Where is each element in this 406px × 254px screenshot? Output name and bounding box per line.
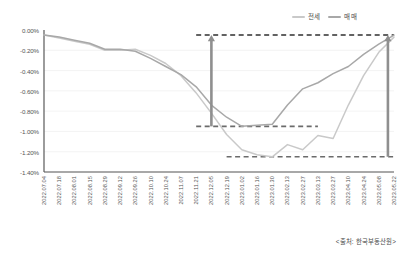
series-line-매매 [44,35,394,126]
legend-swatch-jeonse [292,16,305,18]
x-tick-label: 2022.12.05 [208,176,214,205]
legend-label-jeonse: 전세 [308,14,320,21]
recovery-arrow-jeonse [384,35,391,157]
x-tick-label: 2022.07.18 [56,176,62,205]
x-tick-label: 2022.11.21 [193,176,199,205]
x-tick-label: 2023.03.13 [315,176,321,205]
x-tick-label: 2023.05.22 [391,176,397,205]
y-axis: 0.00%-0.20%-0.40%-0.60%-0.80%-1.00%-1.20… [0,30,42,172]
chart-root: 전세 매매 0.00%-0.20%-0.40%-0.60%-0.80%-1.00… [0,0,406,254]
y-tick-label: -1.40% [20,169,39,176]
plot-area [44,30,394,172]
x-tick-label: 2022.12.19 [224,176,230,205]
x-tick-label: 2022.08.29 [102,176,108,205]
x-axis: 2022.07.042022.07.182022.08.012022.08.15… [44,176,394,224]
x-tick-label: 2023.02.27 [300,176,306,205]
y-tick-label: -1.20% [20,148,39,155]
x-tick-label: 2023.01.30 [269,176,275,205]
legend-swatch-maemae [328,16,341,18]
chart-canvas [44,30,394,172]
x-tick-label: 2022.09.12 [117,176,123,205]
y-tick-label: -0.40% [20,67,39,74]
y-tick-label: -0.60% [20,87,39,94]
x-tick-label: 2023.01.02 [239,176,245,205]
x-tick-label: 2022.10.24 [163,176,169,205]
x-tick-label: 2023.04.24 [361,176,367,205]
source-note: <출처: 한국부동산원> [336,237,396,246]
x-tick-label: 2022.11.07 [178,176,184,205]
x-tick-label: 2023.05.08 [376,176,382,205]
x-tick-label: 2022.07.04 [41,176,47,205]
x-tick-label: 2022.10.10 [148,176,154,205]
x-tick-label: 2023.01.16 [254,176,260,205]
x-tick-label: 2022.08.15 [87,176,93,205]
chart-legend: 전세 매매 [292,14,357,21]
legend-item-jeonse[interactable]: 전세 [292,14,320,21]
legend-item-maemae[interactable]: 매매 [328,14,356,21]
x-tick-label: 2022.08.01 [71,176,77,205]
x-tick-label: 2023.03.27 [330,176,336,205]
y-tick-label: 0.00% [22,27,39,34]
y-tick-label: -0.20% [20,47,39,54]
series-line-전세 [44,35,394,157]
legend-label-maemae: 매매 [344,14,356,21]
recovery-arrow-maemae [208,35,215,126]
x-tick-label: 2022.09.26 [132,176,138,205]
y-tick-label: -0.80% [20,108,39,115]
x-tick-label: 2023.04.10 [345,176,351,205]
y-tick-label: -1.00% [20,128,39,135]
x-tick-label: 2023.02.13 [284,176,290,205]
